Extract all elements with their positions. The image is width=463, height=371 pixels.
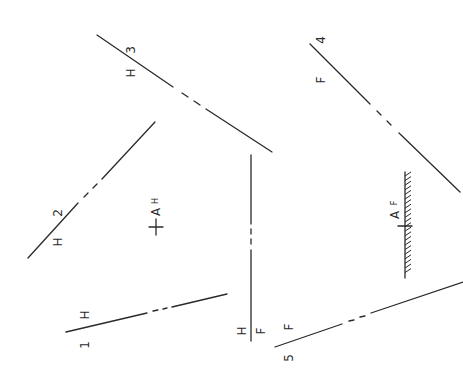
line-4-number: 4 (314, 36, 328, 44)
point-a-f-label: A (388, 210, 402, 219)
hatch-mark (405, 227, 411, 231)
hatch-mark (405, 172, 411, 176)
line-2-view-label: H (51, 237, 65, 246)
hatch-mark (405, 218, 411, 222)
fold-line-h-label: H (235, 326, 249, 335)
point-a-h (149, 219, 163, 235)
hatch-mark (405, 259, 411, 263)
point-a-f-edge (398, 172, 412, 278)
line-3-number: 3 (124, 46, 138, 54)
line-5 (275, 282, 463, 347)
hatch-mark (405, 200, 411, 204)
line-2-number: 2 (51, 209, 65, 217)
line-3-view-label: H (124, 68, 138, 77)
line-5-number: 5 (282, 354, 296, 362)
geometry-figure: 3 H 4 F 2 H A H H 1 H F (0, 0, 463, 371)
hatch-mark (405, 190, 411, 194)
hatch-mark (405, 269, 411, 273)
hatch-marks (405, 172, 411, 273)
hatch-mark (405, 209, 411, 213)
line-2 (28, 122, 155, 258)
line-5-view-label: F (282, 323, 296, 330)
hatch-mark (405, 250, 411, 254)
fold-line-f-label: F (254, 327, 268, 334)
line-4 (310, 44, 460, 192)
hatch-mark (405, 213, 411, 217)
hatch-mark (405, 177, 411, 181)
hatch-mark (405, 241, 411, 245)
point-a-f-subscript: F (390, 200, 399, 205)
hatch-mark (405, 181, 411, 185)
hatch-mark (405, 195, 411, 199)
line-1-view-label: H (78, 310, 92, 319)
hatch-mark (405, 232, 411, 236)
hatch-mark (405, 264, 411, 268)
point-a-h-label: A (149, 207, 163, 216)
line-1-number: 1 (78, 341, 92, 349)
point-a-h-subscript: H (151, 198, 160, 204)
hatch-mark (405, 236, 411, 240)
hatch-mark (405, 186, 411, 190)
hatch-mark (405, 204, 411, 208)
hatch-mark (405, 246, 411, 250)
line-4-view-label: F (314, 76, 328, 83)
hatch-mark (405, 255, 411, 259)
